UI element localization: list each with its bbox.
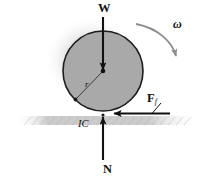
angular-velocity-label: ω xyxy=(173,18,182,30)
angular-velocity-arc xyxy=(136,24,176,56)
instant-center-label: IC xyxy=(78,119,89,130)
instant-center-dot xyxy=(101,113,104,116)
physics-diagram: W ω Ff IC N r xyxy=(0,0,216,182)
friction-force-label-main: F xyxy=(147,91,155,105)
diagram-canvas xyxy=(0,0,216,182)
weight-label: W xyxy=(98,2,111,15)
friction-force-label-subscript: f xyxy=(155,97,157,106)
radius-label: r xyxy=(85,80,89,89)
radius-endpoint-dot xyxy=(74,98,78,102)
friction-force-label: Ff xyxy=(147,92,157,106)
normal-force-label: N xyxy=(103,163,112,176)
